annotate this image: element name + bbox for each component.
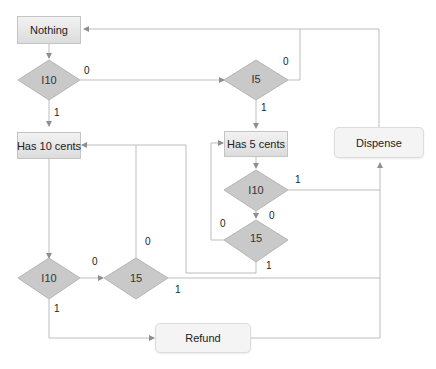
decision-d3-label: I10 [236,184,276,196]
action-dispense[interactable]: Dispense [334,127,424,158]
edge-label-d6-1: 1 [175,284,181,295]
decision-d5-label: I10 [29,272,69,284]
state-nothing[interactable]: Nothing [17,16,81,44]
state-has-5-cents[interactable]: Has 5 cents [224,131,288,157]
edge-label-d4-1: 1 [266,260,272,271]
edge-label-d3-1: 1 [295,174,301,185]
edge-label-d5-1: 1 [54,303,60,314]
state-has-10-cents[interactable]: Has 10 cents [17,132,81,159]
edge-d4-to-has10 [82,145,256,273]
action-refund[interactable]: Refund [155,323,251,353]
edge-label-d3-0: 0 [269,210,275,221]
diagram-connectors [0,0,436,369]
decision-d6-label: 15 [116,272,156,284]
state-nothing-label: Nothing [30,24,68,36]
action-dispense-label: Dispense [356,137,402,149]
edge-d2-to-top [288,29,300,80]
edge-label-d5-0: 0 [92,256,98,267]
state-has-10-cents-label: Has 10 cents [17,140,81,152]
edge-label-d2-0: 0 [283,56,289,67]
decision-d1-label: I10 [29,74,69,86]
edge-label-d6-0: 0 [145,236,151,247]
edge-d5-to-refund [49,299,154,338]
edge-label-d2-1: 1 [261,102,267,113]
edge-label-d1-0: 0 [84,65,90,76]
edge-label-d4-0: 0 [220,218,226,229]
edge-label-d1-1: 1 [54,107,60,118]
state-has-5-cents-label: Has 5 cents [227,138,285,150]
decision-d2-label: I5 [236,73,276,85]
decision-d4-label: 15 [236,232,276,244]
action-refund-label: Refund [185,332,220,344]
